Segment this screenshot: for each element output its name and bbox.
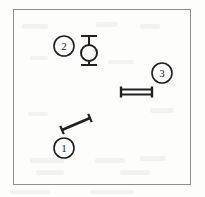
horizontal-dumbbell xyxy=(121,87,152,98)
diagonal-shaft xyxy=(62,118,90,130)
vertical-ring-dumbbell xyxy=(81,36,97,65)
figure-drawing xyxy=(0,0,205,197)
callout-circle-2 xyxy=(54,36,74,56)
callout-circle-1 xyxy=(54,138,74,158)
callout-circle-3 xyxy=(152,63,172,83)
figure-container: 1 2 3 xyxy=(0,0,205,197)
diagonal-dumbbell xyxy=(60,114,92,134)
ring-circle xyxy=(81,45,97,61)
